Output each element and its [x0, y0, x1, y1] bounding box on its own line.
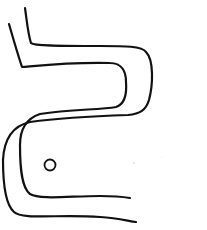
- speck: [162, 157, 163, 158]
- snake-sketch: [0, 0, 207, 230]
- speck: [133, 162, 134, 163]
